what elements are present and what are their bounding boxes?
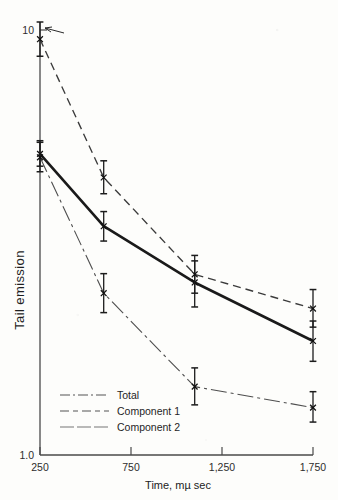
y-axis-title: Tail emission xyxy=(12,250,27,330)
chart-legend: Total Component 1 Component 2 xyxy=(60,389,180,433)
series-line-component-2 xyxy=(40,157,313,407)
x-tick-label-750: 750 xyxy=(122,461,140,473)
x-axis-ticks: 250 750 1,250 1,750 xyxy=(31,447,326,473)
y-axis-ticks: 10 1.0 xyxy=(19,24,47,461)
data-point-component-1-600 xyxy=(100,161,107,194)
data-point-component-1-250 xyxy=(37,22,44,56)
series-line-total xyxy=(40,154,313,341)
y-tick-label-1: 1.0 xyxy=(19,449,34,461)
data-markers-layer xyxy=(37,22,317,422)
tail-emission-decay-chart: 10 1.0 Tail emission 250 750 1,250 1,750… xyxy=(0,0,338,500)
x-tick-label-250: 250 xyxy=(31,461,49,473)
data-point-component-2-600 xyxy=(100,274,107,313)
x-tick-label-1750: 1,750 xyxy=(300,461,326,473)
y-tick-label-10: 10 xyxy=(22,24,34,36)
data-point-component-2-1100 xyxy=(191,368,198,405)
figure-root: 10 1.0 Tail emission 250 750 1,250 1,750… xyxy=(0,0,338,500)
series-line-component-1 xyxy=(40,39,313,308)
axes-group xyxy=(40,22,313,455)
x-axis-title: Time, mµ sec xyxy=(145,479,211,491)
legend-label-total: Total xyxy=(117,389,139,401)
legend-label-component-1: Component 1 xyxy=(117,405,180,417)
legend-label-component-2: Component 2 xyxy=(117,421,180,433)
pointer-arrow-annotation xyxy=(45,27,64,33)
x-tick-label-1250: 1,250 xyxy=(209,461,235,473)
